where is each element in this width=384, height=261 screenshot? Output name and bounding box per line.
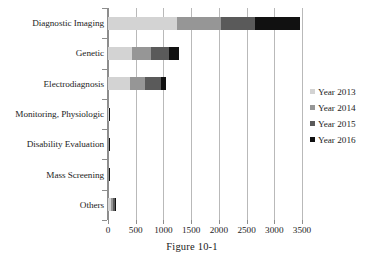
y-tick-5 <box>102 159 107 160</box>
x-axis-label-1000: 1000 <box>154 225 172 235</box>
x-axis-label-3000: 3000 <box>265 225 283 235</box>
x-axis-tick-labels: 0500100015002000250030003500 <box>0 225 384 239</box>
x-axis-label-0: 0 <box>106 225 111 235</box>
bar-segment-year-2015 <box>221 17 255 30</box>
gridline-1000 <box>163 8 164 220</box>
y-axis-category-labels: Diagnostic ImagingGeneticElectrodiagnosi… <box>0 8 104 220</box>
y-tick-4 <box>102 129 107 130</box>
y-axis-label-mass-screening: Mass Screening <box>1 170 104 180</box>
y-axis-label-diagnostic-imaging: Diagnostic Imaging <box>1 18 104 28</box>
bar-segment-year-2016 <box>169 47 179 60</box>
x-axis-label-1500: 1500 <box>182 225 200 235</box>
bar-segment-year-2015 <box>151 47 169 60</box>
gridline-3500 <box>302 8 303 220</box>
legend-label: Year 2016 <box>318 135 356 145</box>
bar-segment-year-2016 <box>115 198 116 211</box>
gridline-3000 <box>274 8 275 220</box>
y-tick-1 <box>102 38 107 39</box>
x-tick-1500 <box>191 220 192 224</box>
gridline-1500 <box>191 8 192 220</box>
legend-item-year-2013[interactable]: Year 2013 <box>310 84 384 99</box>
x-axis-label-500: 500 <box>129 225 143 235</box>
x-axis-label-3500: 3500 <box>293 225 311 235</box>
bar-segment-year-2015 <box>145 77 161 90</box>
bar-segment-year-2013 <box>108 47 132 60</box>
bar-segment-year-2014 <box>177 17 221 30</box>
y-tick-6 <box>102 190 107 191</box>
bar-segment-year-2016 <box>255 17 299 30</box>
y-axis-label-genetic: Genetic <box>1 48 104 58</box>
bar-segment-year-2013 <box>108 17 177 30</box>
legend-label: Year 2014 <box>318 103 356 113</box>
legend-swatch-icon <box>310 121 315 126</box>
y-tick-3 <box>102 99 107 100</box>
x-axis-label-2500: 2500 <box>237 225 255 235</box>
plot-area <box>108 8 302 220</box>
bar-disability-evaluation <box>108 138 110 151</box>
figure-caption: Figure 10-1 <box>0 241 384 252</box>
bar-segment-year-2013 <box>108 77 130 90</box>
legend-item-year-2015[interactable]: Year 2015 <box>310 116 384 131</box>
x-tick-1000 <box>163 220 164 224</box>
legend-label: Year 2015 <box>318 119 356 129</box>
y-axis-label-others: Others <box>1 200 104 210</box>
x-axis-label-2000: 2000 <box>210 225 228 235</box>
bar-genetic <box>108 47 179 60</box>
bar-monitoring-physiologic <box>108 108 110 121</box>
bar-others <box>108 198 116 211</box>
figure-container: Diagnostic ImagingGeneticElectrodiagnosi… <box>0 0 384 261</box>
bar-mass-screening <box>108 168 109 181</box>
legend-swatch-icon <box>310 105 315 110</box>
y-tick-2 <box>102 69 107 70</box>
gridline-2500 <box>247 8 248 220</box>
x-tick-2500 <box>247 220 248 224</box>
y-tick-7 <box>102 220 107 221</box>
bar-segment-year-2014 <box>132 47 151 60</box>
bar-diagnostic-imaging <box>108 17 300 30</box>
gridline-500 <box>136 8 137 220</box>
legend-label: Year 2013 <box>318 87 356 97</box>
x-tick-2000 <box>219 220 220 224</box>
chart-legend: Year 2013Year 2014Year 2015Year 2016 <box>310 84 384 148</box>
x-tick-3000 <box>274 220 275 224</box>
legend-item-year-2016[interactable]: Year 2016 <box>310 132 384 147</box>
x-tick-0 <box>108 220 109 224</box>
bar-electrodiagnosis <box>108 77 166 90</box>
bar-segment-year-2014 <box>130 77 145 90</box>
y-axis-label-disability-evaluation: Disability Evaluation <box>1 139 104 149</box>
legend-swatch-icon <box>310 89 315 94</box>
x-tick-3500 <box>302 220 303 224</box>
x-tick-500 <box>136 220 137 224</box>
legend-item-year-2014[interactable]: Year 2014 <box>310 100 384 115</box>
legend-swatch-icon <box>310 137 315 142</box>
y-tick-0 <box>102 8 107 9</box>
gridline-2000 <box>219 8 220 220</box>
y-axis-label-monitoring-physiologic: Monitoring, Physiologic <box>1 109 104 119</box>
y-axis-label-electrodiagnosis: Electrodiagnosis <box>1 79 104 89</box>
bar-segment-year-2016 <box>161 77 167 90</box>
